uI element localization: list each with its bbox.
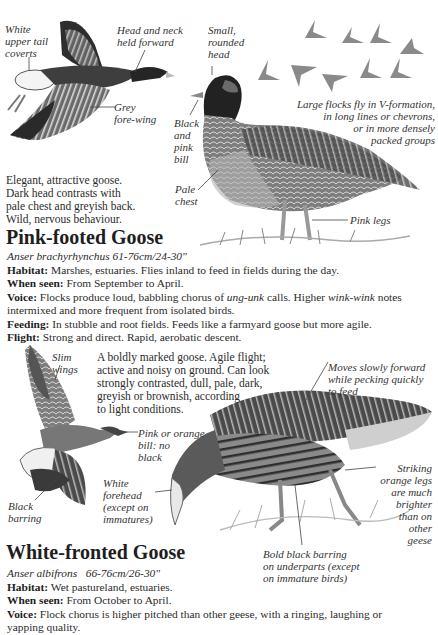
description-line: A boldly marked goose. Agile flight;: [97, 351, 269, 364]
annotation-line: fore-wing: [114, 113, 156, 125]
description-line: active and noisy on ground. Can look: [97, 364, 269, 377]
annotation-line: White: [5, 23, 48, 35]
annotation-line: are much: [360, 486, 432, 498]
annotation-line: bill: no: [138, 439, 205, 451]
annotation-line: coverts: [5, 47, 48, 59]
fact-text-continued: intermixed and more frequent from isolat…: [7, 304, 437, 318]
fact-text: Marshes, estuaries. Flies inland to feed…: [51, 264, 339, 276]
fact-text-continued: yapping quality.: [7, 621, 437, 635]
annotation-grey-forewing: Grey fore-wing: [114, 101, 156, 125]
description-line: Elegant, attractive goose.: [6, 174, 135, 187]
fact-habitat: Habitat: Wet pastureland, estuaries.: [7, 581, 437, 595]
annotation-line: Slim: [52, 351, 78, 363]
annotation-pink-legs: Pink legs: [350, 214, 391, 226]
annotation-line: to feed: [328, 385, 425, 397]
annotation-slim-wings: Slim wings: [52, 351, 78, 375]
fact-text: Flocks produce loud, babbling chorus of: [40, 291, 227, 303]
fact-voice: Voice: Flock chorus is higher pitched th…: [7, 608, 437, 622]
fact-label: Voice:: [7, 291, 37, 303]
fact-voice: Voice: Flocks produce loud, babbling cho…: [7, 291, 437, 305]
fact-feeding: Feeding: In stubble and root fields. Fee…: [7, 318, 437, 332]
annotation-line: Black: [8, 500, 42, 512]
annotation-line: Large flocks fly in V-formation,: [260, 98, 435, 110]
fact-text: From October to April.: [67, 594, 172, 606]
scientific-name-line: Anser brachyrhynchus 61-76cm/24-30": [7, 250, 437, 264]
species-title: Pink-footed Goose: [6, 226, 163, 248]
annotation-line: orange legs: [360, 474, 432, 486]
annotation-small-head: Small, rounded head: [208, 24, 244, 60]
annotation-head-neck: Head and neck held forward: [117, 24, 183, 48]
fact-label: Voice:: [7, 608, 37, 620]
annotation-pale-chest: Pale chest: [175, 183, 198, 207]
description-line: to light conditions.: [97, 403, 269, 416]
fact-when-seen: When seen: From October to April.: [7, 594, 437, 608]
fact-text: Flock chorus is higher pitched than othe…: [40, 608, 382, 620]
fact-label: Flight:: [7, 331, 40, 343]
description-line: strongly contrasted, dull, pale, dark,: [97, 377, 269, 390]
annotation-line: Small,: [208, 24, 244, 36]
annotation-line: than on: [360, 510, 432, 522]
fact-label: Habitat:: [7, 264, 48, 276]
annotation-bill: Pink or orange bill: no black: [138, 427, 205, 463]
annotation-line: pink: [174, 141, 199, 153]
annotation-moves-slowly: Moves slowly forward while pecking quick…: [328, 361, 425, 397]
annotation-line: barring: [8, 512, 42, 524]
species-facts: Anser albifrons 66-76cm/26-30" Habitat: …: [7, 567, 437, 635]
annotation-line: Moves slowly forward: [328, 361, 425, 373]
annotation-line: held forward: [117, 36, 183, 48]
annotation-line: and: [174, 129, 199, 141]
fact-text: notes: [375, 291, 402, 303]
annotation-line: chest: [175, 195, 198, 207]
annotation-line: brighter: [360, 498, 432, 510]
fact-text: calls. Higher: [264, 291, 328, 303]
size: 66-76cm/26-30": [86, 567, 160, 579]
species-description: Elegant, attractive goose. Dark head con…: [6, 174, 135, 226]
fact-label: Habitat:: [7, 581, 48, 593]
call-name: ung-unk: [227, 291, 264, 303]
annotation-line: (except on: [103, 501, 153, 513]
annotation-line: upper tail: [5, 35, 48, 47]
flock-illustration: [258, 20, 424, 92]
annotation-line: black: [138, 451, 205, 463]
fact-text: From September to April.: [67, 277, 184, 289]
annotation-line: Pink or orange: [138, 427, 205, 439]
fact-flight: Flight: Strong and direct. Rapid, aeroba…: [7, 331, 437, 345]
annotation-orange-legs: Striking orange legs are much brighter t…: [360, 462, 432, 546]
annotation-line: White: [103, 477, 153, 489]
annotation-white-forehead: White forehead (except on immatures): [103, 477, 153, 525]
annotation-line: wings: [52, 363, 78, 375]
annotation-line: geese: [360, 534, 432, 546]
annotation-line: Head and neck: [117, 24, 183, 36]
fact-label: When seen:: [7, 594, 64, 606]
fact-habitat: Habitat: Marshes, estuaries. Flies inlan…: [7, 264, 437, 278]
annotation-line: immatures): [103, 513, 153, 525]
annotation-black-barring: Black barring: [8, 500, 42, 524]
size: 61-76cm/24-30": [112, 250, 186, 262]
fact-text: Wet pastureland, estuaries.: [51, 581, 173, 593]
annotation-line: forehead: [103, 489, 153, 501]
annotation-line: or in more densely: [260, 122, 435, 134]
annotation-flocks: Large flocks fly in V-formation, in long…: [260, 98, 435, 146]
species-title: White-fronted Goose: [6, 541, 185, 563]
description-line: greyish or brownish, according: [97, 390, 269, 403]
description-line: Wild, nervous behaviour.: [6, 213, 135, 226]
scientific-name-line: Anser albifrons 66-76cm/26-30": [7, 567, 437, 581]
annotation-line: packed groups: [260, 134, 435, 146]
annotation-line: Pale: [175, 183, 198, 195]
annotation-line: Black: [174, 117, 199, 129]
annotation-line: while pecking quickly: [328, 373, 425, 385]
description-line: Dark head contrasts with: [6, 187, 135, 200]
annotation-line: Grey: [114, 101, 156, 113]
annotation-bill: Black and pink bill: [174, 117, 199, 165]
annotation-white-upper-tail: White upper tail coverts: [5, 23, 48, 59]
fact-text: Strong and direct. Rapid, aerobatic desc…: [43, 331, 242, 343]
annotation-line: in long lines or chevrons,: [260, 110, 435, 122]
call-name: wink-wink: [328, 291, 375, 303]
scientific-name: Anser albifrons: [7, 567, 77, 579]
species-facts: Anser brachyrhynchus 61-76cm/24-30" Habi…: [7, 250, 437, 345]
species-description: A boldly marked goose. Agile flight; act…: [97, 351, 269, 416]
annotation-line: head: [208, 48, 244, 60]
description-line: pale chest and greyish back.: [6, 200, 135, 213]
annotation-line: Bold black barring: [263, 548, 360, 560]
annotation-line: rounded: [208, 36, 244, 48]
